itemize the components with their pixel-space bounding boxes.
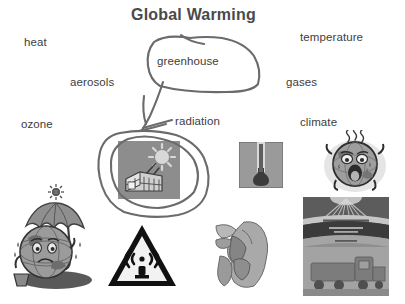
word-label-climate: climate [300,116,337,128]
greenhouse-arrow-barb-right [143,120,172,128]
greenhouse-circle-tail [181,35,204,44]
page-title: Global Warming [131,6,256,24]
thermometer-icon [239,142,283,188]
greenhouse-arrow-shaft [142,82,163,130]
word-label-ozone: ozone [21,118,53,130]
greenhouse-sun-illustration [118,141,180,199]
greenhouse-arrow-head [139,124,166,131]
earth-with-umbrella-illustration [12,182,98,290]
radiation-warning-sign [105,222,179,290]
overheated-earth-illustration [322,130,388,192]
word-label-gases: gases [286,76,317,88]
word-label-aerosols: aerosols [70,76,114,88]
climate-poster-illustration [303,197,389,296]
grey-hand-illustration [214,216,272,290]
word-label-greenhouse: greenhouse [157,55,219,67]
concept-map-canvas: Global Warming heat temperature aerosols… [0,0,405,304]
greenhouse-arrow-barb-left [143,96,146,124]
word-label-radiation: radiation [175,115,220,127]
word-label-heat: heat [24,36,47,48]
word-label-temperature: temperature [300,31,363,43]
